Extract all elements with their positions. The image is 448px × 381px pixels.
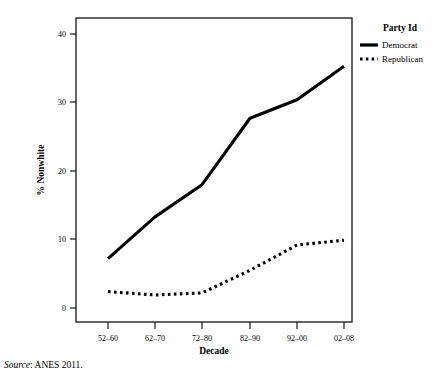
y-tick-label: 20 (58, 167, 66, 176)
y-tick-label: 0 (62, 304, 66, 313)
y-tick-group: 30 (58, 98, 76, 107)
x-tick-group: 72–80 (192, 322, 212, 343)
x-axis: 52–60 62–70 72–80 82–90 92–00 02–08 (98, 322, 354, 343)
x-tick-label: 62–70 (145, 334, 165, 343)
y-tick-group: 40 (58, 30, 76, 39)
x-tick-group: 92–00 (287, 322, 307, 343)
source-note: Source: ANES 2011. (4, 360, 83, 370)
x-tick-label: 72–80 (192, 334, 212, 343)
chart-figure: 0 10 20 30 40 % Nonwhite (0, 0, 448, 381)
y-tick-group: 20 (58, 167, 76, 176)
legend: Party Id Democrat Republican (360, 23, 423, 64)
y-axis-title: % Nonwhite (36, 145, 46, 196)
y-tick-label: 40 (58, 30, 66, 39)
legend-label-democrat: Democrat (382, 40, 418, 50)
x-tick-group: 02–08 (334, 322, 354, 343)
x-tick-label: 82–90 (240, 334, 260, 343)
legend-label-republican: Republican (382, 54, 423, 64)
legend-entry-republican[interactable]: Republican (360, 54, 423, 64)
y-tick-group: 0 (62, 304, 76, 313)
y-tick-label: 10 (58, 235, 66, 244)
x-tick-group: 62–70 (145, 322, 165, 343)
x-tick-group: 52–60 (98, 322, 118, 343)
y-tick-label: 30 (58, 98, 66, 107)
x-axis-title: Decade (199, 346, 229, 355)
source-prefix: Source (4, 360, 30, 370)
legend-title: Party Id (383, 23, 418, 33)
x-tick-group: 82–90 (240, 322, 260, 343)
x-tick-label: 52–60 (98, 334, 118, 343)
legend-entry-democrat[interactable]: Democrat (360, 40, 418, 50)
x-tick-label: 92–00 (287, 334, 307, 343)
y-tick-group: 10 (58, 235, 76, 244)
line-chart: 0 10 20 30 40 % Nonwhite (0, 0, 448, 355)
y-axis: 0 10 20 30 40 (58, 30, 76, 313)
x-tick-label: 02–08 (334, 334, 354, 343)
source-text: ANES 2011. (35, 360, 83, 370)
